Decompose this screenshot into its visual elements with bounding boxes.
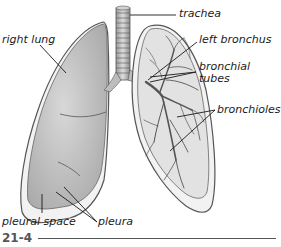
label-bronchioles: bronchioles <box>217 104 281 116</box>
left-lung <box>132 25 215 212</box>
label-bronchial-tubes-line2: tubes <box>199 73 230 85</box>
label-pleural-space: pleural space <box>2 216 76 228</box>
label-pleura: pleura <box>98 216 133 228</box>
label-trachea: trachea <box>179 8 221 20</box>
label-right-lung: right lung <box>2 34 55 46</box>
right-lung <box>21 22 109 223</box>
figure-rule-divider <box>38 238 276 239</box>
label-left-bronchus: left bronchus <box>199 34 271 46</box>
figure-number: 21-4 <box>2 231 32 245</box>
